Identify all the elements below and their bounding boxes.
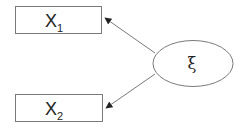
node-xi: ξ — [153, 41, 233, 87]
node-x2-label: X — [45, 99, 57, 119]
node-x2-subscript: 2 — [57, 110, 63, 122]
node-x1-subscript: 1 — [57, 22, 63, 34]
node-x1: X1 — [16, 7, 102, 35]
edge-xi-x2 — [106, 74, 155, 108]
diagram-canvas: X1 X2 ξ — [0, 0, 247, 130]
node-x2: X2 — [16, 95, 103, 123]
node-xi-label: ξ — [188, 54, 197, 73]
node-x1-label: X — [45, 11, 57, 31]
edge-xi-x1 — [105, 18, 155, 53]
